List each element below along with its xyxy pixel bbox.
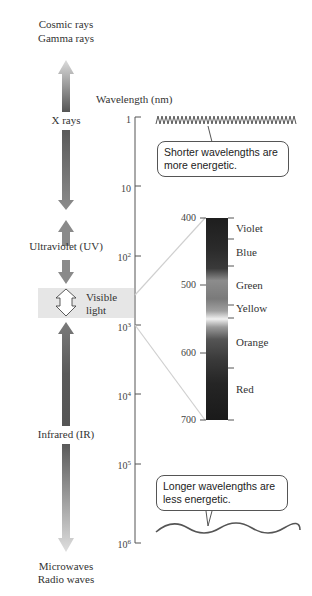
axis-title: Wavelength (nm) [96, 93, 172, 106]
callout-long-line-2: less energetic. [163, 493, 281, 506]
callout-shorter-wavelengths: Shorter wavelengths are more energetic. [157, 141, 289, 177]
callout-short-line-2: more energetic. [164, 159, 282, 172]
label-light: light [86, 304, 106, 317]
spectrum-tick-600: 600 [156, 347, 196, 359]
callout-long-line-1: Longer wavelengths are [163, 480, 281, 493]
label-gamma-rays: Gamma rays [20, 32, 112, 45]
tick-1: 1 [91, 111, 131, 126]
callout-longer-wavelengths: Longer wavelengths are less energetic. [156, 475, 288, 511]
long-wave-line [156, 523, 300, 533]
zoom-line-bottom [135, 325, 205, 420]
color-violet: Violet [236, 222, 263, 235]
arrow-down-uv [58, 260, 74, 284]
tick-10e2: 102 [91, 249, 131, 264]
color-red: Red [236, 383, 254, 396]
spectrum-tick-400: 400 [156, 212, 196, 224]
tick-10e6: 106 [91, 536, 131, 551]
label-infrared: Infrared (IR) [14, 428, 118, 441]
tick-10e4: 104 [91, 388, 131, 403]
label-cosmic-rays: Cosmic rays [20, 18, 112, 31]
tick-10e3: 103 [91, 319, 131, 334]
spectrum-tick-700: 700 [156, 414, 196, 426]
short-wave-line [156, 116, 296, 124]
arrow-down-radio [58, 444, 74, 552]
visible-spectrum-bar [206, 218, 228, 420]
arrow-up-ir [58, 322, 74, 426]
callout-short-line-1: Shorter wavelengths are [164, 146, 282, 159]
color-yellow: Yellow [236, 302, 267, 315]
color-green: Green [236, 279, 263, 292]
spectrum-tick-500: 500 [156, 279, 196, 291]
color-blue: Blue [236, 246, 257, 259]
color-orange: Orange [236, 336, 268, 349]
label-microwaves: Microwaves [20, 560, 112, 573]
tick-10: 10 [91, 180, 131, 195]
label-radio-waves: Radio waves [20, 573, 112, 586]
arrow-up-gamma [58, 60, 74, 112]
tick-10e5: 105 [91, 457, 131, 472]
label-visible: Visible [86, 291, 117, 304]
arrow-down-xray [58, 130, 74, 210]
